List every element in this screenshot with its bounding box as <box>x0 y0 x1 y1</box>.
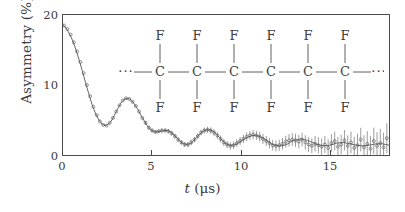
svg-text:F: F <box>303 100 312 114</box>
svg-text:F: F <box>192 100 201 114</box>
molecule-bond-layer <box>134 44 371 99</box>
x-tick-label-10: 10 <box>226 159 256 173</box>
svg-text:C: C <box>192 64 202 79</box>
x-tick-label-5: 5 <box>136 159 166 173</box>
molecule-canvas: FCFFCFFCFFCFFCFFCF······ <box>104 18 384 114</box>
x-axis-label: t (μs) <box>0 180 405 196</box>
svg-text:F: F <box>192 28 201 43</box>
y-tick-label-10: 10 <box>32 78 58 92</box>
svg-text:···: ··· <box>371 64 384 79</box>
svg-text:F: F <box>266 28 275 43</box>
figure-root: Asymmetry (%) 0 10 20 0 5 10 15 t (μs) F… <box>0 0 405 212</box>
svg-text:F: F <box>303 28 312 43</box>
x-axis-label-unit: (μs) <box>190 180 221 196</box>
svg-text:C: C <box>266 64 276 79</box>
x-tick-mark-10 <box>241 150 242 156</box>
molecule-atom-layer: FCFFCFFCFFCFFCFFCF······ <box>118 28 384 114</box>
x-tick-mark-0 <box>62 150 63 156</box>
x-tick-mark-15 <box>330 150 331 156</box>
y-tick-label-20: 20 <box>32 8 58 22</box>
x-tick-label-0: 0 <box>47 159 77 173</box>
svg-text:···: ··· <box>118 64 133 79</box>
svg-text:F: F <box>340 100 349 114</box>
svg-text:C: C <box>340 64 350 79</box>
svg-text:F: F <box>155 28 164 43</box>
ptfe-molecule-inset: FCFFCFFCFFCFFCFFCF······ <box>104 18 384 114</box>
svg-text:F: F <box>229 100 238 114</box>
x-tick-mark-5 <box>151 150 152 156</box>
error-bar-layer <box>146 121 387 155</box>
svg-text:F: F <box>155 100 164 114</box>
svg-text:C: C <box>155 64 165 79</box>
x-tick-label-15: 15 <box>315 159 345 173</box>
svg-text:F: F <box>340 28 349 43</box>
svg-text:C: C <box>303 64 313 79</box>
svg-text:F: F <box>266 100 275 114</box>
svg-text:C: C <box>229 64 239 79</box>
svg-text:F: F <box>229 28 238 43</box>
